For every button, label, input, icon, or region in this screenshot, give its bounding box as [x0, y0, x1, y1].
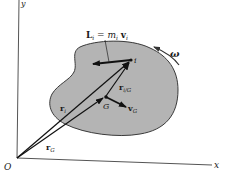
point-G-label: G — [103, 102, 110, 111]
point-i — [129, 58, 132, 61]
momentum-label: Li = mi vi — [86, 30, 128, 41]
origin-label: O — [4, 162, 12, 172]
y-axis-label: y — [20, 0, 26, 8]
rigid-body-diagram: y x O i G Li = mi vi ω ri ri/G rG vG — [0, 0, 227, 179]
omega-label: ω — [170, 48, 180, 59]
y-axis — [17, 0, 19, 158]
x-axis-label: x — [214, 160, 219, 170]
x-axis — [17, 158, 212, 165]
point-i-label: i — [134, 56, 137, 65]
r-G-label: rG — [46, 142, 55, 153]
point-G — [104, 95, 108, 99]
